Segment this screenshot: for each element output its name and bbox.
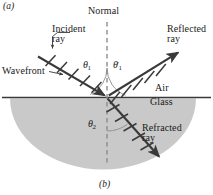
- incident-ray-label-line2: ray: [52, 34, 86, 44]
- medium-label-air: Air: [155, 83, 169, 93]
- angle-subscript-reflection: 1: [119, 64, 123, 72]
- incident-wavefront-ticks: [46, 55, 102, 93]
- medium-label-glass: Glass: [150, 97, 173, 107]
- angle-label-reflection: θ′1: [113, 60, 122, 72]
- panel-label-b: (b): [99, 180, 110, 190]
- reflected-ray-label-line2: ray: [167, 34, 206, 44]
- angle-label-refraction: θ2: [88, 119, 96, 131]
- incident-ray-label: Incident ray: [52, 24, 86, 45]
- incident-ray: [38, 55, 105, 95]
- ray-diagram-figure: (a) (b) Normal Incident ray Reflected ra…: [0, 0, 213, 195]
- panel-label-a: (a): [3, 2, 14, 12]
- angle-subscript-refraction: 2: [93, 123, 97, 131]
- wavefront-label: Wavefront: [2, 66, 45, 76]
- refracted-ray-label-line2: ray: [142, 133, 182, 143]
- wavefront-label-leader: [49, 72, 63, 75]
- angle-subscript-incidence: 1: [88, 64, 92, 72]
- normal-label: Normal: [88, 6, 119, 16]
- refracted-ray-label: Refracted ray: [142, 123, 182, 144]
- reflected-ray-label: Reflected ray: [167, 24, 206, 45]
- angle-label-incidence: θ1: [83, 60, 91, 72]
